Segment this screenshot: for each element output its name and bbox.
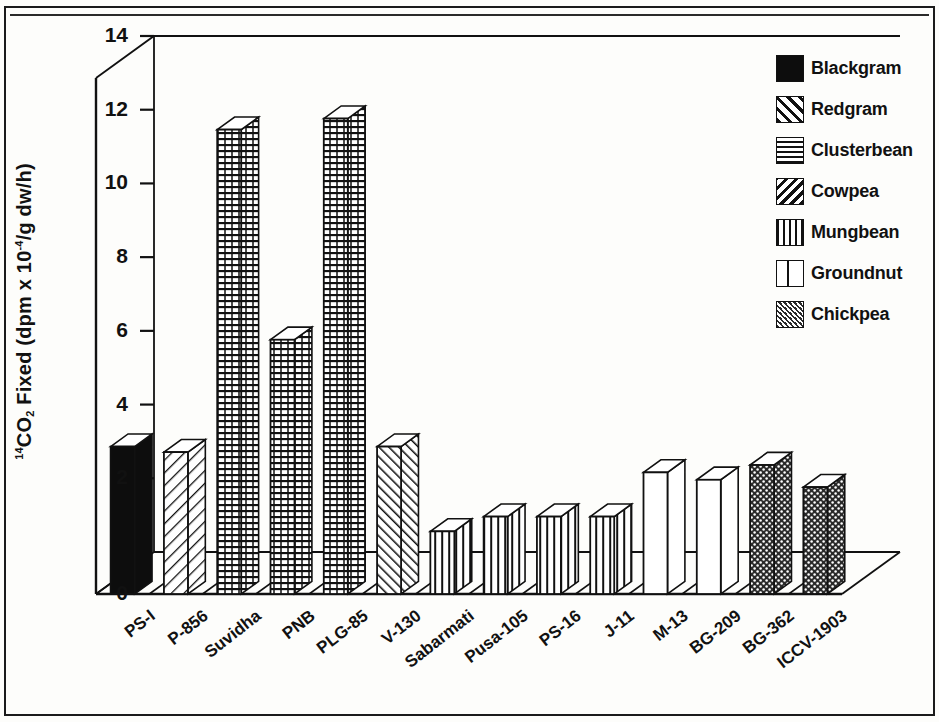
y-tick-label: 4 — [88, 392, 128, 416]
legend-item: Cowpea — [776, 171, 936, 212]
y-tick-label: 10 — [88, 170, 128, 194]
legend-swatch-mungbean — [776, 219, 804, 246]
legend-swatch-blackgram — [776, 55, 804, 82]
legend-label-mungbean: Mungbean — [811, 222, 899, 243]
bar-v-130 — [377, 434, 418, 594]
bar-plg-85 — [324, 106, 365, 594]
legend-item: Chickpea — [776, 294, 936, 335]
legend-item: Mungbean — [776, 212, 936, 253]
legend-item: Redgram — [776, 89, 936, 130]
bar-pusa-105 — [484, 504, 525, 594]
bar-iccv-1903 — [803, 475, 844, 594]
chart-legend: Blackgram Redgram Clusterbean Cowpea Mun… — [776, 48, 936, 335]
legend-swatch-cowpea — [776, 178, 804, 205]
bar-sabarmati — [430, 519, 471, 594]
legend-swatch-redgram — [776, 96, 804, 123]
legend-item: Blackgram — [776, 48, 936, 89]
y-tick-label: 14 — [88, 23, 128, 47]
bar-pnb — [271, 327, 312, 594]
legend-label-clusterbean: Clusterbean — [811, 140, 913, 161]
legend-label-cowpea: Cowpea — [811, 181, 879, 202]
legend-item: Clusterbean — [776, 130, 936, 171]
legend-swatch-clusterbean — [776, 137, 804, 164]
bar-m-13 — [644, 460, 685, 594]
y-tick-label: 8 — [88, 244, 128, 268]
legend-item: Groundnut — [776, 253, 936, 294]
bar-ps-16 — [537, 504, 578, 594]
legend-label-chickpea: Chickpea — [811, 304, 889, 325]
y-tick-label: 2 — [88, 465, 128, 489]
chart-figure: 14CO2 Fixed (dpm x 10-4/g dw/h) — [0, 0, 939, 722]
bar-suvidha — [217, 117, 258, 594]
legend-label-blackgram: Blackgram — [811, 58, 901, 79]
y-tick-label: 12 — [88, 97, 128, 121]
y-tick-label: 6 — [88, 318, 128, 342]
legend-label-groundnut: Groundnut — [811, 263, 902, 284]
bar-bg-209 — [697, 467, 738, 594]
bar-ps-i — [111, 434, 152, 594]
bars-layer — [111, 106, 845, 594]
bar-p-856 — [164, 440, 205, 595]
legend-label-redgram: Redgram — [811, 99, 888, 120]
legend-swatch-groundnut — [776, 260, 804, 287]
legend-swatch-chickpea — [776, 301, 804, 328]
y-tick-label: 0 — [88, 581, 128, 605]
bar-bg-362 — [750, 452, 791, 594]
bar-j-11 — [590, 504, 631, 594]
